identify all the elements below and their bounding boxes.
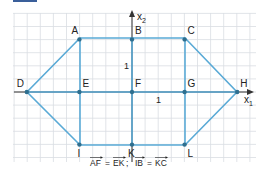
point-d — [25, 90, 29, 94]
point-label-d: D — [17, 78, 24, 89]
separator: ; — [126, 158, 128, 168]
point-i — [77, 142, 81, 146]
point-l — [182, 142, 186, 146]
point-k — [130, 142, 134, 146]
point-label-g: G — [188, 78, 196, 89]
point-label-b: B — [135, 25, 142, 36]
geometry-figure: ABCDEFGHIKL x2 x1 1 1 AF = EK ; IB = KC — [0, 0, 263, 175]
equals-2: = — [147, 158, 152, 168]
vector-ib: IB — [135, 158, 143, 168]
point-label-f: F — [135, 78, 141, 89]
point-h — [235, 90, 239, 94]
point-f — [130, 90, 134, 94]
point-a — [77, 37, 81, 41]
vector-af: AF — [90, 158, 101, 168]
point-label-e: E — [82, 78, 89, 89]
point-label-l: L — [188, 148, 194, 159]
point-label-c: C — [188, 25, 195, 36]
axes — [14, 10, 254, 162]
equals-1: = — [105, 158, 110, 168]
point-g — [182, 90, 186, 94]
x2-unit-tick: 1 — [124, 61, 129, 71]
vector-ek: EK — [113, 158, 125, 168]
point-e — [77, 90, 81, 94]
header-bar — [13, 0, 37, 2]
x2-label: x2 — [137, 11, 146, 24]
point-c — [182, 37, 186, 41]
point-label-k: K — [128, 148, 135, 159]
point-label-h: H — [240, 78, 247, 89]
point-label-i: I — [77, 148, 80, 159]
vector-kc: KC — [155, 158, 167, 168]
point-label-a: A — [71, 25, 78, 36]
x1-unit-tick: 1 — [156, 95, 161, 105]
point-b — [130, 37, 134, 41]
